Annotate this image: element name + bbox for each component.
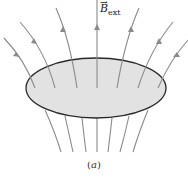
magnetic-field-diagram	[0, 0, 188, 179]
vector-arrow-icon: →	[100, 0, 108, 7]
arrow-icon	[94, 24, 100, 30]
ext-subscript: ext	[108, 8, 120, 17]
arrow-icon	[60, 26, 66, 32]
b-ext-label: →Bext	[100, 2, 121, 15]
arrow-icon	[173, 52, 180, 57]
loop-disk	[26, 58, 166, 118]
figure-caption: (a)	[0, 159, 188, 170]
arrow-icon	[128, 26, 134, 32]
arrow-icon	[31, 38, 37, 44]
arrow-icon	[13, 52, 20, 57]
